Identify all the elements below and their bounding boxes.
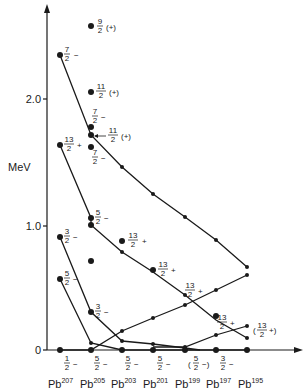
- gs-pb205: 52−: [94, 354, 108, 372]
- spin-labels: 72− 92(+) 112(+) 72− 112(+) 72− 132+ 52: [64, 17, 277, 339]
- x-axis-arrow-icon: [294, 347, 303, 353]
- x-label-pb201: Pb201: [143, 377, 168, 390]
- label-11-2-plus-arrow: 112(+): [94, 126, 131, 144]
- x-label-pb197: Pb197: [206, 377, 231, 390]
- svg-text:13: 13: [258, 321, 267, 330]
- svg-text:2: 2: [220, 322, 225, 331]
- svg-text:7: 7: [93, 107, 98, 116]
- label-5-2-minus-pb205: 52−: [95, 208, 109, 226]
- svg-text:+: +: [198, 287, 203, 296]
- svg-text:3: 3: [221, 354, 226, 363]
- svg-text:(+): (+): [106, 23, 116, 32]
- label-13-2-plus-pb195: ( 132+): [253, 321, 277, 339]
- svg-text:−: −: [74, 51, 79, 60]
- y-tick-2: 2.0: [26, 93, 41, 105]
- svg-text:−): −): [202, 360, 210, 369]
- data-points: [57, 23, 250, 353]
- svg-text:7: 7: [65, 45, 70, 54]
- y-axis-label: MeV: [8, 161, 31, 173]
- svg-text:2: 2: [99, 91, 104, 100]
- svg-text:1: 1: [65, 354, 70, 363]
- svg-text:2: 2: [93, 157, 98, 166]
- svg-text:5: 5: [65, 269, 70, 278]
- gs-pb197: 32−: [220, 354, 234, 372]
- x-label-pb203: Pb203: [111, 377, 136, 390]
- label-7-2-minus-lower: 72−: [92, 148, 106, 166]
- svg-text:5: 5: [95, 354, 100, 363]
- svg-text:3: 3: [96, 302, 101, 311]
- svg-text:−: −: [104, 214, 109, 223]
- svg-text:2: 2: [96, 311, 101, 320]
- svg-text:2: 2: [98, 26, 103, 35]
- svg-text:11: 11: [109, 126, 118, 135]
- svg-text:−: −: [166, 360, 171, 369]
- svg-text:−: −: [101, 113, 106, 122]
- svg-text:2: 2: [161, 269, 166, 278]
- level-systematics-chart: 0 1.0 2.0 MeV: [0, 0, 308, 392]
- label-7-2-minus-upper: 72−: [92, 107, 106, 125]
- svg-text:2: 2: [126, 363, 131, 372]
- svg-text:−: −: [73, 360, 78, 369]
- svg-text:−: −: [229, 360, 234, 369]
- svg-text:2: 2: [95, 363, 100, 372]
- svg-text:9: 9: [98, 17, 103, 26]
- svg-text:2: 2: [65, 236, 70, 245]
- label-3-2-minus-pb207: 32−: [64, 227, 78, 245]
- svg-text:−: −: [73, 233, 78, 242]
- svg-text:2: 2: [111, 135, 116, 144]
- svg-text:(+): (+): [109, 88, 119, 97]
- label-13-2-plus-pb199: 132+: [185, 281, 203, 299]
- svg-text:5: 5: [126, 354, 131, 363]
- gs-pb207: 12−: [64, 354, 78, 372]
- svg-text:2: 2: [67, 144, 72, 153]
- svg-text:(: (: [188, 360, 191, 369]
- series-13-2-plus: [60, 145, 247, 338]
- svg-text:2: 2: [260, 330, 265, 339]
- label-13-2-plus-pb207: 132+: [64, 135, 82, 153]
- svg-text:(+): (+): [121, 132, 131, 141]
- svg-text:(: (: [253, 326, 256, 335]
- gs-pb203: 52−: [125, 354, 139, 372]
- label-13-2-plus-pb197: 132+: [217, 313, 235, 331]
- svg-text:−: −: [104, 308, 109, 317]
- x-category-labels: Pb207 Pb205 Pb203 Pb201 Pb199 Pb197 Pb19…: [48, 377, 263, 390]
- svg-text:5: 5: [194, 354, 199, 363]
- y-tick-0: 0: [35, 344, 41, 356]
- svg-text:2: 2: [93, 116, 98, 125]
- series-3-2-minus: [60, 237, 200, 350]
- label-11-2-plus-upper: 112(+): [96, 82, 119, 100]
- svg-text:−: −: [101, 154, 106, 163]
- svg-text:−: −: [134, 360, 139, 369]
- svg-text:−: −: [73, 275, 78, 284]
- svg-text:13: 13: [159, 260, 168, 269]
- svg-text:2: 2: [96, 217, 101, 226]
- x-label-pb205: Pb205: [80, 377, 105, 390]
- gs-pb201: 52−: [157, 354, 171, 372]
- svg-text:2: 2: [158, 363, 163, 372]
- svg-text:−: −: [103, 360, 108, 369]
- ground-state-labels: 12− 52− 52− 52− (52−) 32−: [64, 354, 234, 372]
- svg-text:13: 13: [65, 135, 74, 144]
- svg-text:11: 11: [97, 82, 106, 91]
- label-5-2-minus-pb207: 52−: [64, 269, 78, 287]
- svg-text:2: 2: [65, 363, 70, 372]
- x-label-pb195: Pb195: [238, 377, 263, 390]
- svg-text:5: 5: [96, 208, 101, 217]
- svg-text:5: 5: [158, 354, 163, 363]
- x-label-pb207: Pb207: [48, 377, 73, 390]
- svg-text:+: +: [77, 141, 82, 150]
- series-7-2-minus: [60, 55, 247, 267]
- svg-text:+: +: [230, 319, 235, 328]
- svg-text:13: 13: [129, 231, 138, 240]
- x-label-pb199: Pb199: [175, 377, 200, 390]
- label-7-2-minus-pb207: 72−: [64, 45, 79, 63]
- svg-text:+: +: [142, 237, 147, 246]
- label-13-2-plus-pb201: 132+: [158, 260, 176, 278]
- svg-text:2: 2: [65, 54, 70, 63]
- svg-text:2: 2: [188, 290, 193, 299]
- y-tick-1: 1.0: [26, 220, 41, 232]
- svg-text:2: 2: [194, 363, 199, 372]
- svg-text:13: 13: [218, 313, 227, 322]
- y-axis-arrow-icon: [44, 4, 50, 13]
- label-9-2-plus: 92(+): [97, 17, 116, 35]
